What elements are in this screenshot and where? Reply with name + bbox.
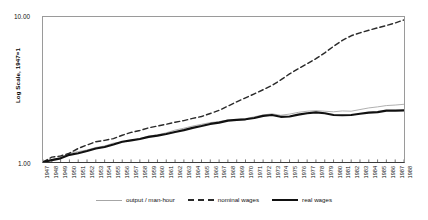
x-axis-tick-labels: 1947194819491950195119521953195419551956… [42,164,405,198]
x-axis-tick-label: 1982 [354,166,360,178]
legend-label: output / man-hour [126,197,175,203]
y-axis-title: Log Scale, 1947=1 [14,21,21,131]
x-axis-tick-label: 1981 [345,166,351,178]
x-axis-tick-label: 1960 [159,166,165,178]
series-line-real-wages [43,110,404,162]
plot-area [42,16,405,163]
x-axis-tick-label: 1949 [62,166,68,178]
x-axis-tick-label: 1951 [80,166,86,178]
x-axis-tick-label: 1966 [213,166,219,178]
x-axis-tick-label: 1986 [390,166,396,178]
x-axis-tick-marks [43,159,404,162]
x-axis-tick-label: 1967 [221,166,227,178]
x-axis-tick-label: 1961 [168,166,174,178]
x-axis-tick-label: 1969 [239,166,245,178]
x-axis-tick-label: 1952 [89,166,95,178]
series-lines [43,17,404,162]
x-axis-tick-label: 1954 [106,166,112,178]
x-axis-tick-label: 1987 [399,166,405,178]
x-axis-tick-label: 1953 [98,166,104,178]
legend-item: nominal wages [188,197,259,203]
x-axis-tick-label: 1948 [53,166,59,178]
chart-container: Log Scale, 1947=1 10.00 1.00 19471948194… [0,0,428,220]
x-axis-tick-label: 1978 [319,166,325,178]
chart-legend: output / man-hournominal wagesreal wages [0,197,428,203]
x-axis-tick-label: 1980 [337,166,343,178]
x-axis-tick-label: 1974 [283,166,289,178]
series-line-output-man-hour [43,104,404,162]
x-axis-tick-label: 1977 [310,166,316,178]
x-axis-tick-label: 1947 [44,166,50,178]
x-axis-tick-label: 1975 [292,166,298,178]
x-axis-tick-label: 1957 [133,166,139,178]
x-axis-tick-label: 1988 [407,166,413,178]
legend-label: real wages [302,197,332,203]
x-axis-tick-label: 1958 [142,166,148,178]
x-axis-tick-label: 1983 [363,166,369,178]
x-axis-tick-label: 1984 [372,166,378,178]
x-axis-tick-label: 1955 [115,166,121,178]
x-axis-tick-label: 1972 [266,166,272,178]
y-axis-tick-label-bottom: 1.00 [18,160,30,167]
x-axis-tick-label: 1968 [230,166,236,178]
series-line-nominal-wages [43,20,404,162]
x-axis-tick-label: 1973 [275,166,281,178]
x-axis-tick-label: 1963 [186,166,192,178]
x-axis-tick-label: 1964 [195,166,201,178]
x-axis-tick-label: 1970 [248,166,254,178]
x-axis-tick-label: 1956 [124,166,130,178]
x-axis-tick-label: 1979 [328,166,334,178]
x-axis-tick-label: 1950 [71,166,77,178]
legend-item: real wages [272,197,332,203]
x-axis-tick-label: 1985 [381,166,387,178]
x-axis-tick-label: 1976 [301,166,307,178]
legend-swatch [96,200,122,201]
legend-label: nominal wages [218,197,259,203]
legend-swatch [272,199,298,201]
x-axis-tick-label: 1965 [204,166,210,178]
x-axis-tick-label: 1971 [257,166,263,178]
legend-swatch [188,199,214,201]
x-axis-tick-label: 1962 [177,166,183,178]
x-axis-tick-label: 1959 [151,166,157,178]
legend-item: output / man-hour [96,197,175,203]
y-axis-tick-label-top: 10.00 [14,13,30,20]
